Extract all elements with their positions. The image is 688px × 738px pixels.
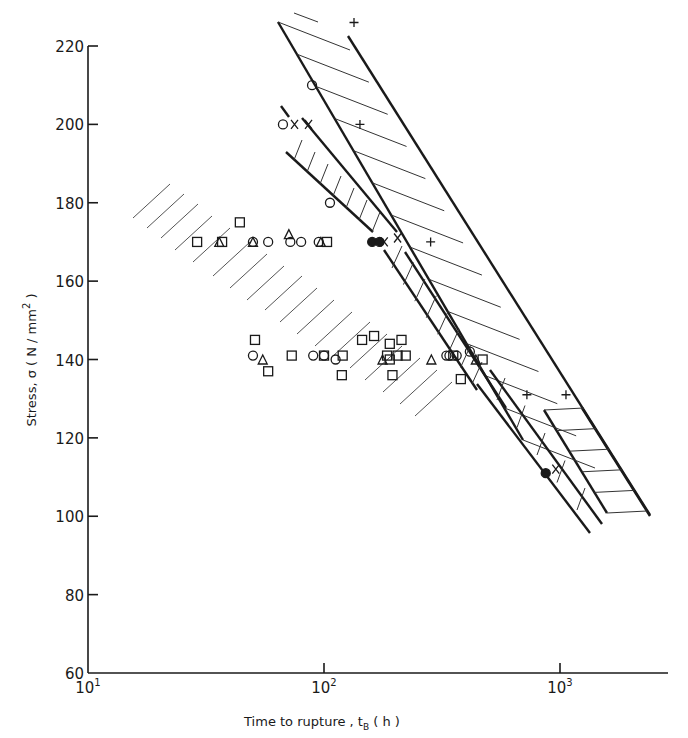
filled-circle-marker	[375, 237, 384, 246]
square-marker	[385, 339, 394, 348]
square-marker	[388, 371, 397, 380]
square-marker	[456, 375, 465, 384]
x-ticks: 101102103	[75, 663, 572, 697]
stress-rupture-chart: 6080100120140160180200220 101102103 Stre…	[0, 0, 688, 738]
y-tick-label: 160	[55, 273, 84, 291]
square-marker	[337, 371, 346, 380]
y-tick-label: 120	[55, 430, 84, 448]
square-marker	[250, 335, 259, 344]
square-marker	[264, 367, 273, 376]
y-axis-title: Stress, σ ( N / mm2 )	[21, 293, 39, 426]
x-marker	[394, 234, 401, 243]
circle-marker	[264, 237, 273, 246]
band-open-lower-left	[133, 184, 452, 416]
x-tick-label: 102	[311, 677, 336, 697]
y-tick-label: 100	[55, 508, 84, 526]
y-tick-label: 180	[55, 195, 84, 213]
y-tick-label: 80	[65, 587, 84, 605]
plus-marker	[522, 390, 531, 399]
plus-marker	[349, 18, 358, 27]
circle-marker	[325, 198, 334, 207]
circle-marker	[248, 351, 257, 360]
square-marker	[397, 335, 406, 344]
y-ticks: 6080100120140160180200220	[55, 38, 98, 683]
triangle-marker	[316, 237, 325, 246]
band-wide-upper	[278, 22, 650, 516]
band-wide-hatch	[278, 13, 647, 513]
y-tick-label: 220	[55, 38, 84, 56]
x-marker	[552, 465, 559, 474]
square-marker	[370, 331, 379, 340]
square-marker	[235, 218, 244, 227]
circle-marker	[278, 120, 287, 129]
square-marker	[193, 237, 202, 246]
plus-marker	[561, 390, 570, 399]
triangle-marker	[258, 355, 267, 364]
plus-marker	[426, 237, 435, 246]
square-marker	[287, 351, 296, 360]
circle-marker	[297, 237, 306, 246]
x-axis-title: Time to rupture , tB ( h )	[243, 714, 400, 732]
x-tick-label: 101	[75, 677, 100, 697]
square-marker	[358, 335, 367, 344]
circle-marker	[309, 351, 318, 360]
triangle-marker	[215, 237, 224, 246]
y-tick-label: 140	[55, 352, 84, 370]
circle-marker	[320, 351, 329, 360]
y-tick-label: 200	[55, 116, 84, 134]
x-tick-label: 103	[547, 677, 572, 697]
band-narrow-middle	[281, 106, 602, 533]
data-points	[193, 18, 571, 478]
x-marker	[291, 120, 298, 129]
filled-circle-marker	[541, 469, 550, 478]
triangle-marker	[427, 355, 436, 364]
